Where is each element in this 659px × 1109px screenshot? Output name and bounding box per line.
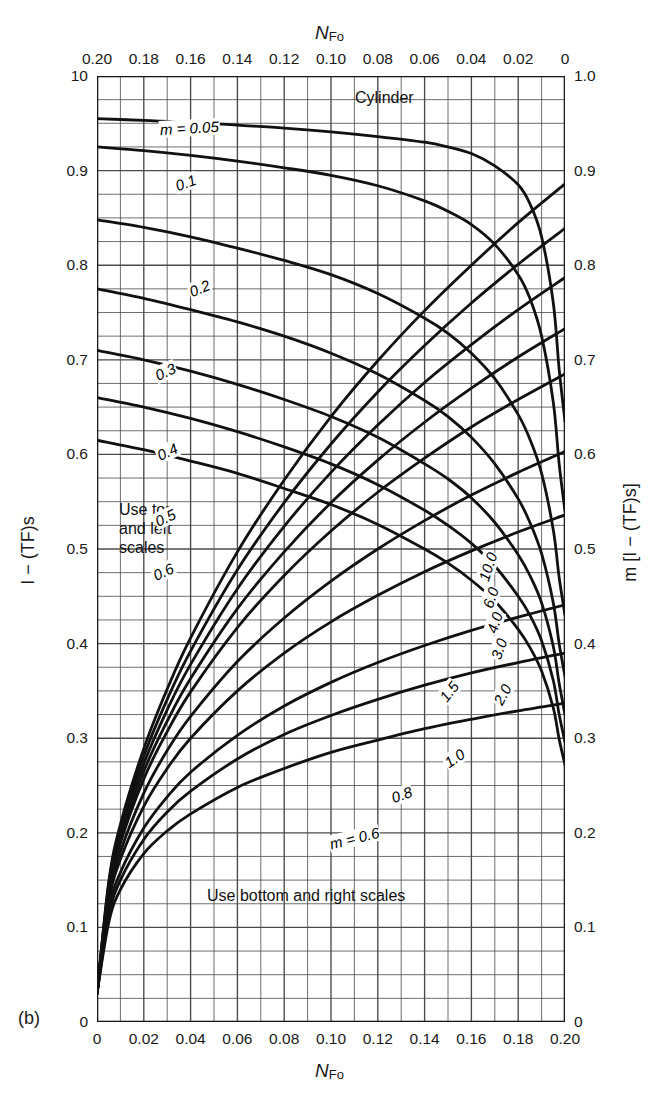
figure-panel: NFo NFo I − (TF)s m [I − (TF)s] (b) 0.20… (0, 0, 659, 1109)
top-tick-2: 0.16 (176, 50, 206, 68)
right-tick-4: 0.6 (574, 445, 596, 463)
top-tick-0: 0.20 (82, 50, 112, 68)
left-tick-6: 0.4 (66, 635, 88, 653)
left-tick-2: 0.8 (66, 256, 88, 274)
bottom-axis-title: NFo (0, 1060, 659, 1082)
bottom-tick-5: 0.10 (316, 1030, 346, 1048)
right-tick-5: 0.5 (574, 540, 596, 558)
bottom-axis-title-sub: Fo (329, 1067, 344, 1082)
plot-area: Cylinder Use top and left scales Use bot… (97, 76, 565, 1022)
left-tick-3: 0.7 (66, 351, 88, 369)
left-tick-7: 0.3 (66, 729, 88, 747)
top-tick-3: 0.14 (222, 50, 252, 68)
left-tick-4: 0.6 (66, 445, 88, 463)
top-tick-5: 0.10 (316, 50, 346, 68)
top-tick-9: 0.02 (503, 50, 533, 68)
left-tick-9: 0.1 (66, 918, 88, 936)
top-axis-title: NFo (0, 22, 659, 44)
right-tick-2: 0.8 (574, 256, 596, 274)
top-tick-4: 0.12 (269, 50, 299, 68)
right-axis-title-text: m [I − (TF)s] (620, 483, 640, 582)
left-tick-0: 10 (71, 67, 88, 85)
top-axis-title-sub: Fo (329, 29, 344, 44)
right-tick-9: 0.1 (574, 918, 596, 936)
bottom-tick-1: 0.02 (129, 1030, 159, 1048)
bottom-tick-3: 0.06 (222, 1030, 252, 1048)
bottom-tick-4: 0.08 (269, 1030, 299, 1048)
right-tick-0: 1.0 (574, 67, 596, 85)
left-tick-10: 0 (79, 1013, 88, 1031)
top-tick-7: 0.06 (410, 50, 440, 68)
left-tick-5: 0.5 (66, 540, 88, 558)
right-tick-8: 0.2 (574, 824, 596, 842)
left-axis-title-text: I − (TF)s (18, 516, 38, 585)
top-tick-8: 0.04 (456, 50, 486, 68)
top-tick-10: 0 (561, 50, 570, 68)
left-axis-title: I − (TF)s (18, 461, 39, 641)
label-upper-m-0-05: m = 0.05 (159, 118, 221, 138)
bottom-axis-title-main: N (315, 1060, 329, 1081)
right-tick-10: 0 (574, 1013, 583, 1031)
bottom-tick-9: 0.18 (503, 1030, 533, 1048)
bottom-tick-2: 0.04 (176, 1030, 206, 1048)
bottom-tick-10: 0.20 (550, 1030, 580, 1048)
left-tick-1: 0.9 (66, 162, 88, 180)
bottom-tick-8: 0.16 (456, 1030, 486, 1048)
top-tick-6: 0.08 (363, 50, 393, 68)
top-axis-title-main: N (315, 22, 329, 43)
right-tick-7: 0.3 (574, 729, 596, 747)
right-tick-1: 0.9 (574, 162, 596, 180)
inside-title-cylinder: Cylinder (355, 88, 414, 107)
right-axis-title: m [I − (TF)s] (620, 443, 641, 623)
left-tick-8: 0.2 (66, 824, 88, 842)
right-tick-3: 0.7 (574, 351, 596, 369)
bottom-tick-0: 0 (93, 1030, 102, 1048)
bottom-tick-7: 0.14 (410, 1030, 440, 1048)
right-tick-6: 0.4 (574, 635, 596, 653)
top-tick-1: 0.18 (129, 50, 159, 68)
panel-id: (b) (18, 1008, 40, 1029)
note-use-bottom-right: Use bottom and right scales (207, 886, 405, 905)
bottom-tick-6: 0.12 (363, 1030, 393, 1048)
